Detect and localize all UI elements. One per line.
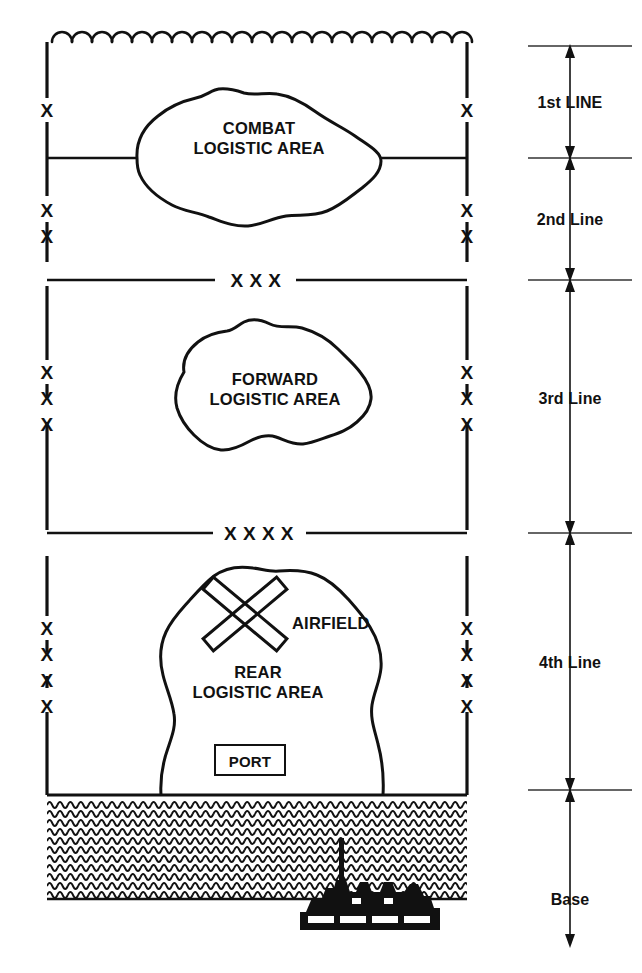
rear-area-label-line2: LOGISTIC AREA: [192, 683, 323, 701]
scale-segment-3rd-line: 3rd Line: [538, 278, 601, 535]
divider-corps: X X X: [47, 270, 467, 291]
feba-scalloped-line: [52, 32, 472, 42]
x-boundary-mark: X: [460, 670, 473, 691]
x-boundary-mark: X: [40, 618, 53, 639]
x-boundary-mark: X: [40, 100, 53, 121]
port-icon: PORT: [215, 745, 285, 775]
x-boundary-mark: X: [460, 200, 473, 221]
x-boundary-mark: X: [460, 618, 473, 639]
scale-segment-1st-line: 1st LINE: [538, 44, 603, 160]
x-boundary-mark: X: [40, 670, 53, 691]
combat-logistic-area: COMBAT LOGISTIC AREA: [137, 89, 381, 226]
scale-label-1st-line: 1st LINE: [538, 94, 603, 111]
divider-corps-label: X X X: [230, 270, 281, 291]
x-boundary-mark: X: [460, 362, 473, 383]
x-boundary-mark: X: [40, 226, 53, 247]
rear-area-label-line1: REAR: [234, 663, 282, 681]
x-boundary-mark: X: [40, 200, 53, 221]
scale-tick-rule: [528, 46, 632, 790]
sea-area: [47, 800, 473, 899]
combat-area-label-line2: LOGISTIC AREA: [193, 139, 324, 157]
x-boundary-mark: X: [40, 362, 53, 383]
x-boundary-mark: X: [460, 100, 473, 121]
x-boundary-mark: X: [460, 388, 473, 409]
x-boundary-mark: X: [40, 696, 53, 717]
scale-label-3rd-line: 3rd Line: [538, 390, 601, 407]
x-boundary-mark: X: [40, 414, 53, 435]
diagram-canvas: X X X X X X X X X X X X X: [0, 0, 642, 973]
scale-segment-base: Base: [551, 788, 590, 948]
x-boundary-mark: X: [40, 644, 53, 665]
x-boundary-mark: X: [460, 696, 473, 717]
scale-label-2nd-line: 2nd Line: [537, 211, 604, 228]
divider-army: X X X X: [47, 523, 467, 544]
scale-segment-2nd-line: 2nd Line: [537, 156, 604, 282]
combat-area-label-line1: COMBAT: [223, 119, 295, 137]
airfield-icon: [203, 577, 287, 651]
forward-area-label-line1: FORWARD: [232, 370, 318, 388]
port-label: PORT: [229, 753, 271, 770]
x-boundary-mark: X: [40, 388, 53, 409]
scale-label-4th-line: 4th Line: [539, 654, 601, 671]
x-boundary-mark: X: [460, 226, 473, 247]
scale-label-base: Base: [551, 891, 590, 908]
lines-of-support-scale: 1st LINE 2nd Line 3rd Line 4t: [528, 44, 632, 948]
airfield-label: AIRFIELD: [292, 614, 370, 632]
logistics-diagram: X X X X X X X X X X X X X: [0, 0, 642, 973]
divider-army-label: X X X X: [224, 523, 294, 544]
scale-segment-4th-line: 4th Line: [539, 531, 601, 792]
forward-logistic-area: FORWARD LOGISTIC AREA: [176, 320, 371, 450]
forward-area-label-line2: LOGISTIC AREA: [209, 390, 340, 408]
x-boundary-mark: X: [460, 414, 473, 435]
x-boundary-mark: X: [460, 644, 473, 665]
